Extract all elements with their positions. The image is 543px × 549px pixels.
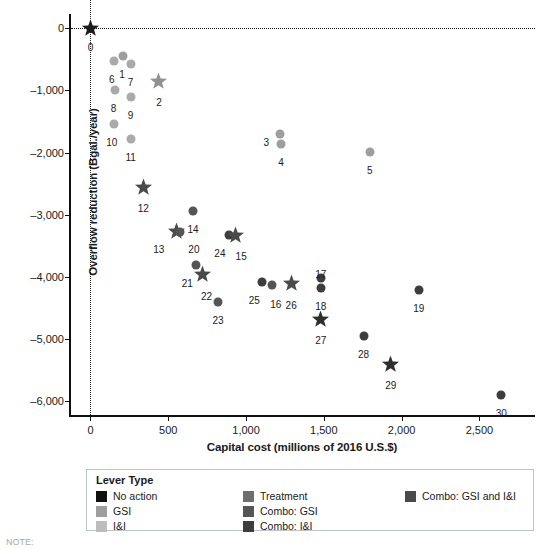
x-tick-mark [402,415,403,421]
data-point-label-16: 16 [270,299,281,310]
data-point-9[interactable] [126,93,135,102]
legend-swatch-icon [96,491,107,502]
x-axis-title: Capital cost (millions of 2016 U.S.$) [69,441,535,453]
data-point-6[interactable] [109,56,118,65]
legend-item[interactable]: Combo: GSI and I&I [405,489,516,503]
legend-item[interactable]: I&I [96,519,157,533]
circle-marker-icon [316,284,325,293]
y-tick-mark [65,153,71,154]
star-marker-icon [226,226,244,244]
data-point-7[interactable] [126,60,135,69]
data-point-label-15: 15 [236,251,247,262]
circle-marker-icon [126,134,135,143]
data-point-label-14: 14 [188,224,199,235]
data-point-14[interactable] [189,207,198,216]
star-marker-icon [382,355,400,373]
x-tick-mark [324,415,325,421]
data-point-26[interactable] [287,279,296,288]
star-marker-icon [134,179,152,197]
data-point-label-5: 5 [367,165,373,176]
legend-item[interactable]: No action [96,489,157,503]
data-point-label-19: 19 [413,303,424,314]
legend-column-0: No actionGSII&I [96,489,157,534]
y-tick-label: –1,000 [30,84,64,96]
data-point-12[interactable] [139,183,148,192]
data-point-label-27: 27 [315,335,326,346]
plot-inner: 0–1,000–2,000–3,000–4,000–5,000–6,000 05… [71,14,535,415]
data-point-0[interactable] [86,24,95,33]
data-point-2[interactable] [154,77,163,86]
data-point-23[interactable] [214,297,223,306]
data-point-label-0: 0 [88,42,94,53]
circle-marker-icon [365,147,374,156]
data-point-8[interactable] [110,86,119,95]
data-point-label-2: 2 [156,97,162,108]
circle-marker-icon [497,390,506,399]
data-point-29[interactable] [386,360,395,369]
circle-marker-icon [277,139,286,148]
legend-item[interactable]: Combo: GSI [243,504,318,518]
data-point-label-28: 28 [358,349,369,360]
data-point-label-22: 22 [201,291,212,302]
data-point-label-3: 3 [263,137,269,148]
circle-marker-icon [214,297,223,306]
legend-item[interactable]: Treatment [243,489,318,503]
legend-label: GSI [113,505,131,517]
y-tick-label: 0 [58,22,64,34]
circle-marker-icon [276,130,285,139]
y-tick-label: –6,000 [30,395,64,407]
plot-frame: Overflow reduction (Bgal./year) 0–1,000–… [69,14,535,417]
data-point-18[interactable] [316,284,325,293]
data-point-19[interactable] [414,286,423,295]
circle-marker-icon [267,281,276,290]
data-point-4[interactable] [277,139,286,148]
y-tick-mark [65,215,71,216]
x-tick-mark [479,415,480,421]
legend-item[interactable]: GSI [96,504,157,518]
data-point-label-21: 21 [182,278,193,289]
data-point-27[interactable] [316,315,325,324]
star-marker-icon [81,19,99,37]
x-tick-label: 500 [159,424,177,436]
legend-label: Combo: I&I [260,520,313,532]
data-point-25[interactable] [258,278,267,287]
y-tick-label: –5,000 [30,333,64,345]
data-point-label-20: 20 [188,244,199,255]
data-point-11[interactable] [126,134,135,143]
data-point-label-29: 29 [385,380,396,391]
reference-line-x-0 [90,0,91,417]
x-tick-mark [90,415,91,421]
circle-marker-icon [126,60,135,69]
circle-marker-icon [189,207,198,216]
data-point-label-13: 13 [153,244,164,255]
y-tick-mark [65,339,71,340]
star-marker-icon [282,275,300,293]
y-tick-mark [65,277,71,278]
data-point-3[interactable] [276,130,285,139]
data-point-label-23: 23 [212,315,223,326]
x-tick-label: 1,000 [232,424,260,436]
legend-item[interactable]: Combo: I&I [243,519,318,533]
data-point-label-9: 9 [128,110,134,121]
data-point-10[interactable] [109,120,118,129]
legend-swatch-icon [243,506,254,517]
data-point-15[interactable] [231,231,240,240]
data-point-label-7: 7 [128,77,134,88]
data-point-5[interactable] [365,147,374,156]
data-point-16[interactable] [267,281,276,290]
data-point-30[interactable] [497,390,506,399]
circle-marker-icon [175,227,184,236]
y-tick-label: –2,000 [30,147,64,159]
data-point-28[interactable] [359,332,368,341]
data-point-20[interactable] [175,227,184,236]
legend-column-1: TreatmentCombo: GSICombo: I&I [243,489,318,534]
legend-swatch-icon [96,506,107,517]
star-marker-icon [150,73,168,91]
data-point-label-4: 4 [278,157,284,168]
data-point-label-17: 17 [315,269,326,280]
data-point-22[interactable] [198,270,207,279]
legend-column-2: Combo: GSI and I&I [405,489,516,504]
circle-marker-icon [109,120,118,129]
data-point-label-25: 25 [249,295,260,306]
data-point-label-8: 8 [111,103,117,114]
